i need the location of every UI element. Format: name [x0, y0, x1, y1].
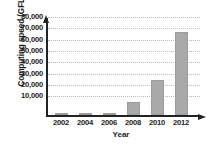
bar-2006[interactable] [103, 113, 116, 115]
y-tick-label: 30,000 [1, 70, 43, 78]
x-axis-line [46, 115, 199, 117]
y-tick-label: 40,000 [1, 58, 43, 66]
y-tick-label: 60,000 [1, 36, 43, 44]
bar-2008[interactable] [127, 102, 140, 116]
x-tick-label: 2012 [168, 118, 194, 127]
bar-2010[interactable] [151, 80, 164, 115]
y-tick-label: 10,000 [1, 92, 43, 100]
x-tick-label: 2002 [48, 118, 74, 127]
y-tick-label: 50,000 [1, 47, 43, 55]
bar-2004[interactable] [79, 113, 92, 115]
y-tick-label: 80,000 [1, 13, 43, 21]
gridline [48, 28, 200, 29]
x-tick-label: 2010 [144, 118, 170, 127]
x-axis-tick-labels: 2002 2004 2006 2008 2010 2012 [46, 118, 206, 130]
y-axis-line [46, 18, 48, 117]
bar-2012[interactable] [175, 32, 188, 116]
y-axis-tick-labels: 80,000 70,000 60,000 50,000 40,000 30,00… [0, 0, 43, 149]
bar-chart: Computing speed (GFLOPS) 80,000 70,000 6… [0, 0, 216, 149]
gridline [48, 17, 200, 18]
x-tick-label: 2006 [96, 118, 122, 127]
bar-2002[interactable] [55, 113, 68, 115]
y-tick-label: 70,000 [1, 24, 43, 32]
plot-area [46, 14, 206, 117]
x-axis-label: Year [46, 130, 196, 139]
x-tick-label: 2004 [72, 118, 98, 127]
x-tick-label: 2008 [120, 118, 146, 127]
y-tick-label: 20,000 [1, 81, 43, 89]
